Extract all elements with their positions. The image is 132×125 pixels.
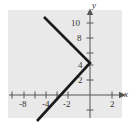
- y-tick-label-8: 8: [77, 34, 82, 43]
- x-tick-label-minus4: -4: [42, 100, 50, 109]
- x-tick-label-minus2: -2: [63, 100, 71, 109]
- y-tick-label-10: 10: [71, 19, 80, 28]
- x-tick-label-2: 2: [110, 100, 115, 109]
- graph-figure: 10 8 4 2 -8 -4 -2 2 x y: [0, 0, 132, 125]
- y-tick-label-2: 2: [78, 76, 83, 85]
- x-axis-label: x: [124, 90, 128, 99]
- y-tick-label-4: 4: [78, 61, 83, 70]
- x-tick-label-minus8: -8: [19, 100, 27, 109]
- y-axis-label: y: [92, 1, 96, 10]
